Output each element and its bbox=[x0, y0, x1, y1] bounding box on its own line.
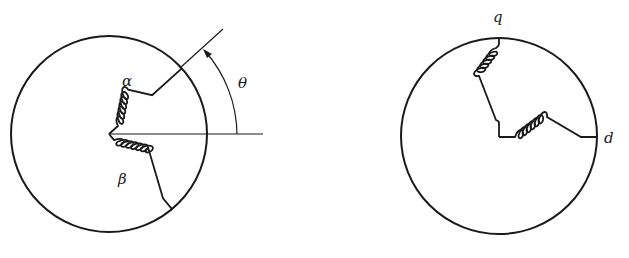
left-diagram bbox=[11, 29, 263, 232]
figure-canvas: α β θ q d bbox=[0, 0, 629, 258]
d-winding bbox=[499, 112, 597, 138]
q-winding bbox=[474, 38, 499, 137]
beta-label: β bbox=[117, 170, 127, 188]
d-label: d bbox=[604, 129, 614, 147]
alpha-label: α bbox=[122, 72, 132, 90]
alpha-winding bbox=[92, 50, 182, 135]
rotated-axis-line bbox=[180, 29, 223, 68]
theta-label: θ bbox=[238, 74, 247, 92]
theta-arc bbox=[205, 51, 237, 134]
right-diagram bbox=[401, 38, 597, 234]
theta-arrowhead-icon bbox=[203, 49, 212, 58]
beta-winding bbox=[108, 118, 191, 210]
q-label: q bbox=[493, 8, 503, 26]
